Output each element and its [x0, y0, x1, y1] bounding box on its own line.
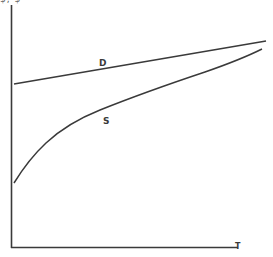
chart: D S T: [0, 0, 273, 257]
x-axis-label: T: [235, 242, 241, 251]
curve-s: [14, 49, 262, 183]
label-d: D: [99, 58, 106, 68]
line-d: [14, 41, 266, 84]
label-s: S: [103, 116, 109, 126]
